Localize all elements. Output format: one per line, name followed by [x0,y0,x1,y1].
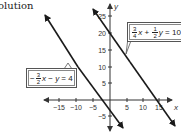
eq2-fraction-1: 3 4 [132,26,137,39]
y-tick-label: −5 [98,113,106,120]
graph: −15 −10 −5 5 10 15 25 20 15 10 5 −5 x y [0,0,181,133]
y-tick-label: 10 [98,64,106,71]
x-tick-label: −5 [89,104,97,111]
y-tick-label: 5 [102,80,106,87]
x-tick-label: 10 [139,104,147,111]
eq1-op: − [46,74,55,83]
eq1-numerator: 3 [36,72,41,79]
eq2-denominator-1: 4 [132,33,137,39]
equation-label-eq1: − 3 2 x − y = 4 [26,68,77,88]
eq1-denominator: 2 [36,79,41,85]
line-eq2 [130,62,175,126]
equation-label-eq2: 3 4 x + 1 2 y = 10 [127,22,181,42]
eq2-fraction-2: 1 2 [152,26,157,39]
eq2-plus: + [142,28,151,37]
eq2-numerator-1: 3 [132,26,137,33]
eq2-numerator-2: 1 [152,26,157,33]
y-tick-label: 20 [98,30,106,37]
eq1-sign: − [30,74,35,83]
eq2-tail: = 10 [163,28,181,37]
x-tick-label: 5 [125,104,129,111]
y-axis-label: y [113,2,119,11]
line-eq1 [45,15,78,67]
eq1-fraction: 3 2 [36,72,41,85]
eq1-tail: = 4 [59,74,73,83]
x-axis-label: x [173,103,179,112]
y-tick-label: 15 [98,47,106,54]
x-tick-label: −10 [70,104,82,111]
eq2-denominator-2: 2 [152,33,157,39]
x-tick-label: −15 [53,104,65,111]
